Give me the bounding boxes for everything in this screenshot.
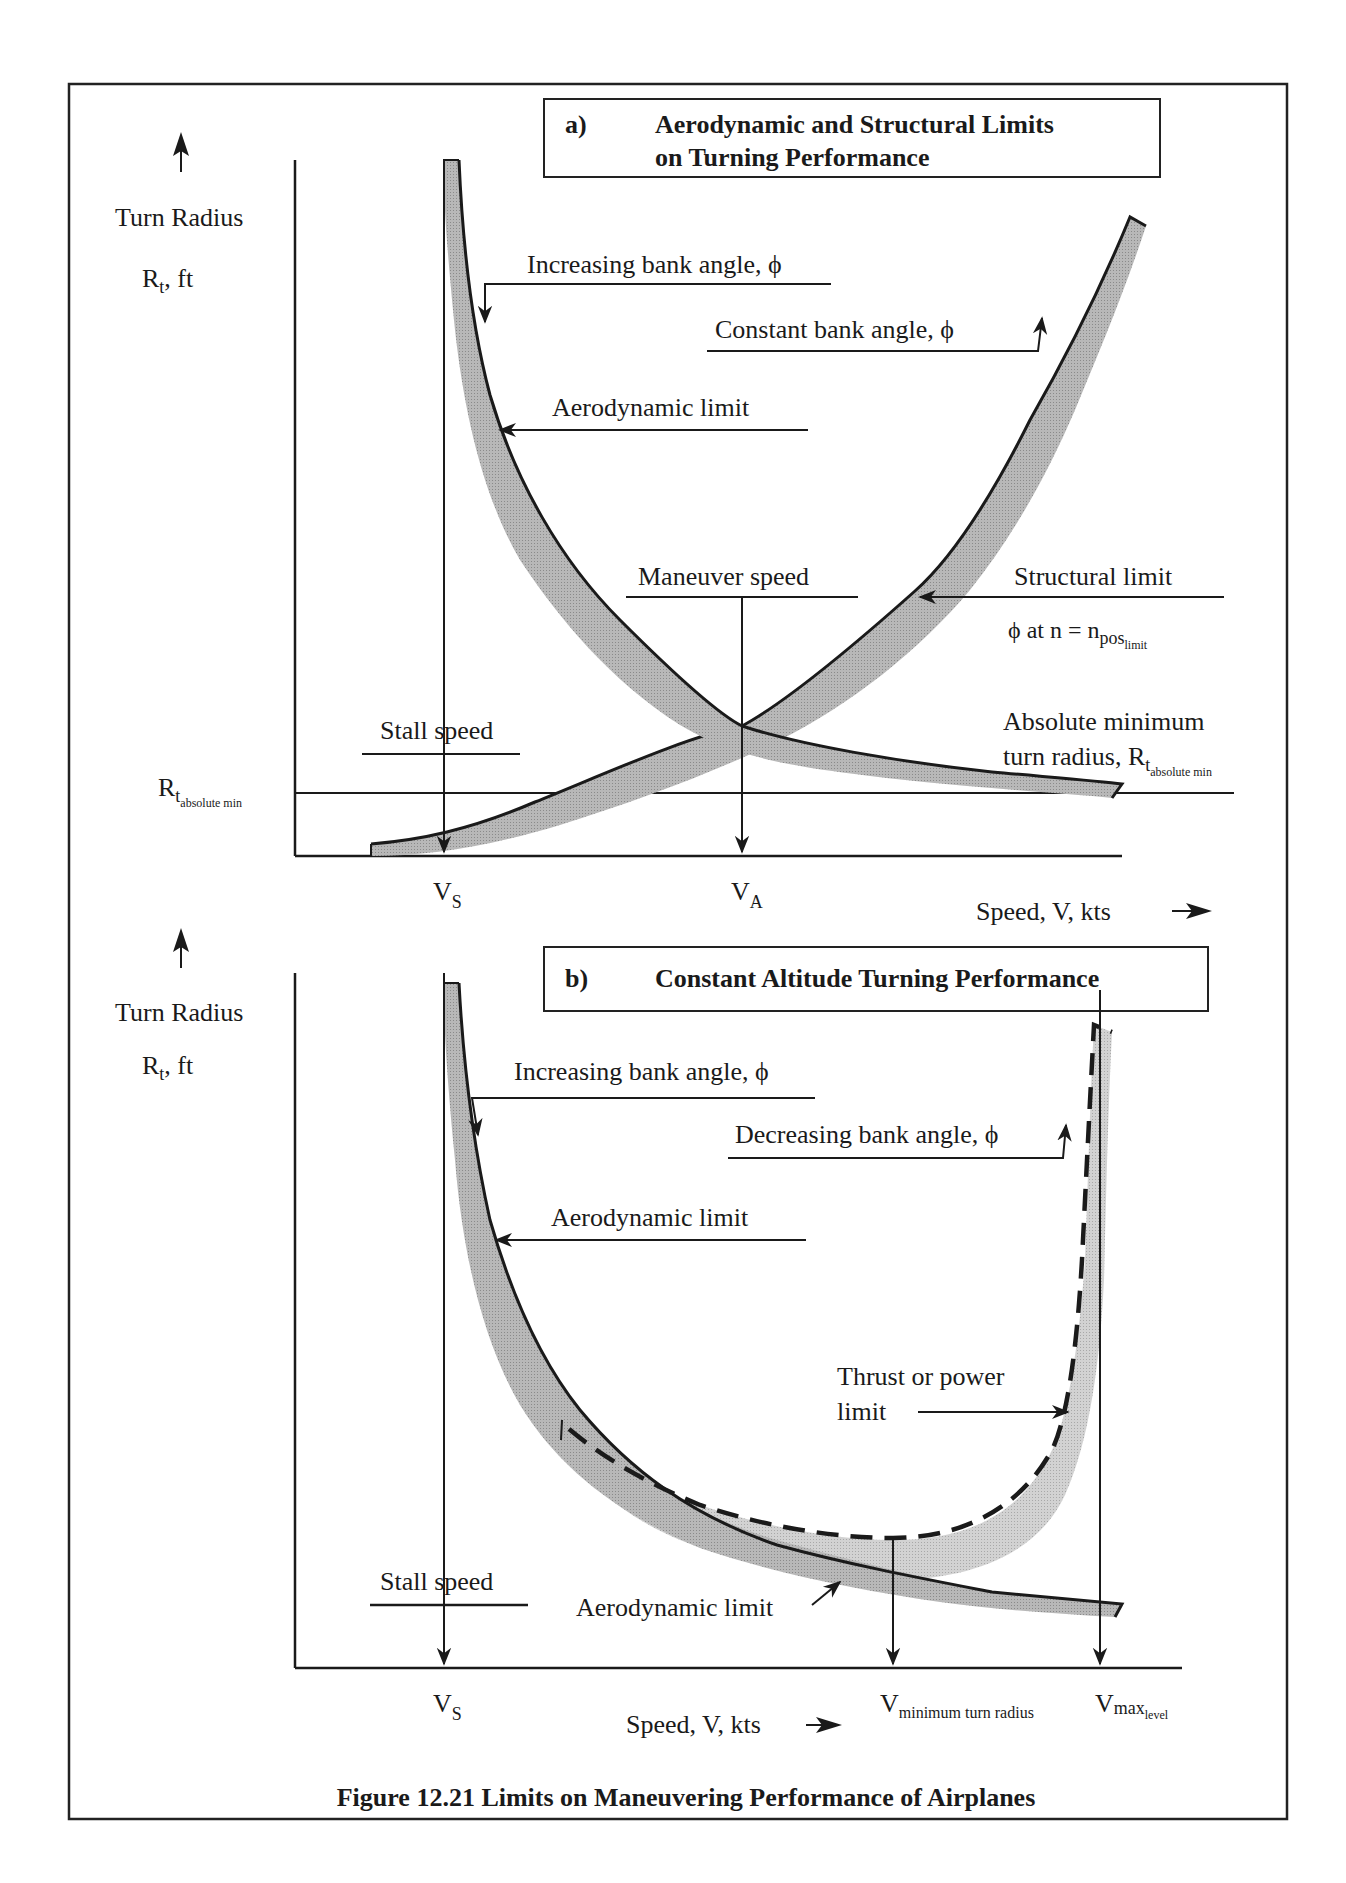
- annot-a-aero-limit: Aerodynamic limit: [552, 393, 750, 422]
- panel-b-y-label: Turn Radius: [115, 998, 243, 1027]
- panel-a-title-line2: on Turning Performance: [655, 143, 929, 172]
- right-arrow-icon: [1172, 903, 1212, 919]
- right-arrow-icon: [806, 1717, 842, 1733]
- panel-b-vmin-label: Vminimum turn radius: [880, 1689, 1034, 1721]
- panel-a-title-line1: Aerodynamic and Structural Limits: [655, 110, 1054, 139]
- annot-a-abs-min-line1: Absolute minimum: [1003, 707, 1205, 736]
- panel-a-x-label: Speed, V, kts: [976, 897, 1111, 926]
- annot-a-abs-min-line2: turn radius, Rtabsolute min: [1003, 742, 1212, 779]
- annot-a-increasing-bank: Increasing bank angle, ϕ: [527, 250, 782, 279]
- panel-b-vs-label: VS: [433, 1689, 462, 1724]
- annot-b-aero-limit-bottom: Aerodynamic limit: [576, 1593, 774, 1622]
- up-arrow-icon: [173, 928, 189, 968]
- annot-a-structural-limit: Structural limit: [1014, 562, 1173, 591]
- thrust-limit-curve: [569, 1025, 1112, 1538]
- panel-a: a) Aerodynamic and Structural Limits on …: [115, 99, 1234, 926]
- panel-a-va-label: VA: [731, 877, 763, 912]
- panel-b-title: Constant Altitude Turning Performance: [655, 964, 1099, 993]
- annot-a-constant-bank: Constant bank angle, ϕ: [715, 315, 954, 344]
- panel-a-tag: a): [565, 110, 587, 139]
- panel-b-tag: b): [565, 964, 588, 993]
- annot-b-thrust-line2: limit: [837, 1397, 887, 1426]
- panel-a-vs-label: VS: [433, 877, 462, 912]
- annot-a-maneuver-speed: Maneuver speed: [638, 562, 809, 591]
- figure-caption: Figure 12.21 Limits on Maneuvering Perfo…: [337, 1783, 1036, 1812]
- panel-b-vmax-label: Vmaxlevel: [1095, 1689, 1169, 1722]
- rt-abs-min-label: Rtabsolute min: [158, 773, 242, 810]
- annot-b-aero-limit-bottom-leader: [812, 1582, 840, 1605]
- panel-b-x-label: Speed, V, kts: [626, 1710, 761, 1739]
- annot-a-structural-phi: ϕ at n = nposlimit: [1008, 617, 1148, 652]
- annot-b-aero-limit: Aerodynamic limit: [551, 1203, 749, 1232]
- panel-a-y-label: Turn Radius: [115, 203, 243, 232]
- annot-b-thrust-line1: Thrust or power: [837, 1362, 1005, 1391]
- panel-a-y-symbol: Rt, ft: [142, 264, 194, 297]
- up-arrow-icon: [173, 132, 189, 172]
- annot-b-decreasing-bank: Decreasing bank angle, ϕ: [735, 1120, 998, 1149]
- annot-b-stall-speed: Stall speed: [380, 1567, 493, 1596]
- panel-b-y-symbol: Rt, ft: [142, 1051, 194, 1084]
- figure-canvas: a) Aerodynamic and Structural Limits on …: [0, 0, 1346, 1883]
- annot-a-stall-speed: Stall speed: [380, 716, 493, 745]
- panel-b: b) Constant Altitude Turning Performance…: [115, 928, 1208, 1739]
- annot-b-increasing-bank: Increasing bank angle, ϕ: [514, 1057, 769, 1086]
